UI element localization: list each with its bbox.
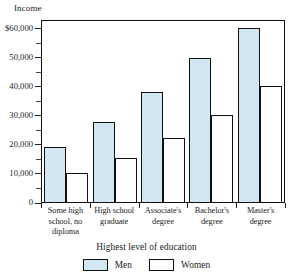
x-axis-category-label: Master'sdegree	[237, 206, 285, 238]
x-axis-category-label-line: degree	[188, 217, 236, 228]
x-axis-category-label-line: High school	[90, 206, 138, 217]
x-axis-category-label-line: Master's	[237, 206, 285, 217]
x-axis-category-label-line: degree	[237, 217, 285, 228]
x-axis-category-label-line: graduate	[90, 217, 138, 228]
legend-swatch-women	[149, 259, 174, 271]
x-axis-category-label-line: Some high	[41, 206, 89, 217]
bar-group	[189, 21, 233, 202]
x-axis-title: Highest level of education	[0, 242, 293, 252]
y-axis-tick-label: 20,000	[0, 140, 33, 149]
x-axis-category-label: Bachelor'sdegree	[188, 206, 236, 238]
y-axis-tick-label: 50,000	[0, 53, 33, 62]
bar-women[interactable]	[66, 173, 88, 202]
chart-figure: Income 010,00020,00030,00040,00050,000$6…	[0, 0, 293, 279]
x-axis-category-label-line: Bachelor's	[188, 206, 236, 217]
legend-label: Women	[181, 260, 210, 270]
bar-women[interactable]	[115, 158, 137, 202]
bar-group	[141, 21, 185, 202]
plot-area	[41, 20, 285, 203]
y-axis-tick-label: 30,000	[0, 111, 33, 120]
bar-women[interactable]	[260, 86, 282, 202]
x-axis-category-labels: Some highschool, nodiplomaHigh schoolgra…	[41, 206, 285, 238]
y-axis-tick-label: 10,000	[0, 169, 33, 178]
bar-women[interactable]	[163, 138, 185, 202]
y-axis-tick-label: 0	[0, 198, 33, 207]
x-axis-category-label: High schoolgraduate	[90, 206, 138, 238]
y-axis-tick-label: 40,000	[0, 82, 33, 91]
y-axis-title: Income	[14, 3, 42, 14]
bar-men[interactable]	[189, 58, 211, 202]
bar-group	[93, 21, 137, 202]
bar-group	[238, 21, 282, 202]
legend-label: Men	[115, 260, 132, 270]
bar-men[interactable]	[44, 147, 66, 202]
x-axis-separator	[285, 203, 286, 208]
x-axis-category-label-line: degree	[139, 217, 187, 228]
bar-group	[44, 21, 88, 202]
chart-legend: MenWomen	[0, 259, 293, 271]
legend-swatch-men	[83, 259, 108, 271]
legend-item-women[interactable]: Women	[149, 259, 210, 271]
x-axis-category-label-line: school, no	[41, 217, 89, 228]
y-axis-tick-label: $60,000	[0, 24, 33, 33]
bar-men[interactable]	[93, 122, 115, 202]
bar-men[interactable]	[238, 28, 260, 202]
legend-item-men[interactable]: Men	[83, 259, 132, 271]
bar-men[interactable]	[141, 92, 163, 202]
x-axis-category-label: Some highschool, nodiploma	[41, 206, 89, 238]
x-axis-category-label-line: diploma	[41, 227, 89, 238]
x-axis-category-label-line: Associate's	[139, 206, 187, 217]
bar-women[interactable]	[211, 115, 233, 202]
x-axis-category-label: Associate'sdegree	[139, 206, 187, 238]
bar-groups	[42, 21, 284, 202]
